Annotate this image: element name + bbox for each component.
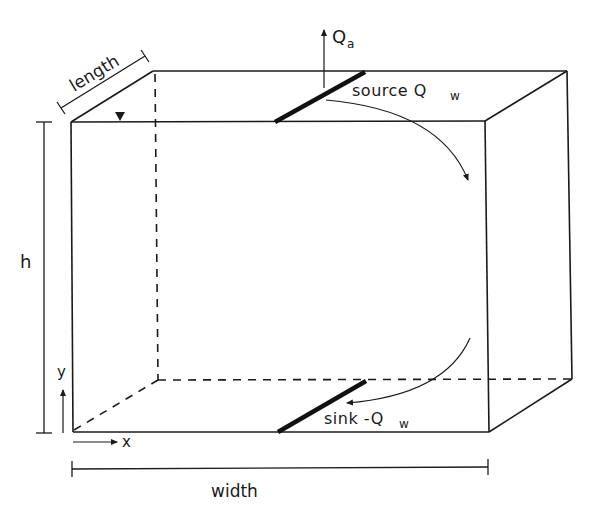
svg-text:a: a [347,37,354,51]
height-label: h [20,251,31,272]
water-table-icon [115,112,125,121]
air-flux-label: Q a [332,26,354,51]
front-face [71,121,489,432]
box-diagram: length h width y x Q a source Q w sink -… [0,0,595,518]
svg-text:sink -Q: sink -Q [324,409,384,428]
length-label: length [66,50,123,95]
diagram-canvas: length h width y x Q a source Q w sink -… [0,0,595,518]
svg-text:source Q: source Q [352,81,427,100]
source-label: source Q w [352,81,460,103]
flow-arrow-down-icon [326,100,468,180]
x-axis-label: x [122,433,131,451]
sink-label: sink -Q w [324,409,409,431]
width-dimension [72,459,488,477]
height-dimension [36,122,52,433]
width-label: width [211,481,258,501]
right-face [489,71,572,432]
y-axis-label: y [57,363,66,381]
svg-text:w: w [450,89,460,103]
flow-arrow-sink-icon [347,338,470,403]
hidden-edges [74,74,572,430]
svg-text:w: w [399,417,409,431]
svg-text:Q: Q [332,26,346,47]
